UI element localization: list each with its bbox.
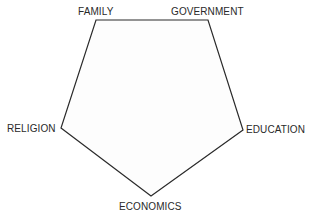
node-label-government: GOVERNMENT (171, 6, 244, 18)
pentagon-shape (0, 0, 313, 216)
node-label-economics: ECONOMICS (119, 201, 182, 213)
institutions-pentagon-diagram: FAMILY GOVERNMENT EDUCATION ECONOMICS RE… (0, 0, 313, 216)
node-label-education: EDUCATION (246, 124, 305, 136)
node-label-religion: RELIGION (7, 123, 56, 135)
pentagon-outline (61, 20, 243, 196)
node-label-family: FAMILY (78, 6, 113, 18)
